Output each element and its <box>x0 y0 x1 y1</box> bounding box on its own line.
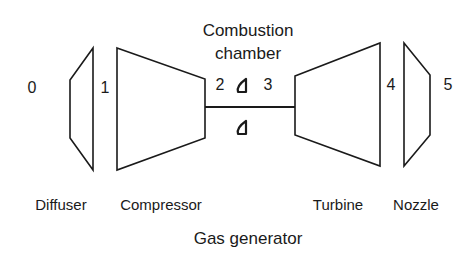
nozzle-label: Nozzle <box>393 196 439 213</box>
compressor-shape <box>117 48 205 170</box>
station-3-label: 3 <box>264 76 273 93</box>
station-1-label: 1 <box>101 79 110 96</box>
turbine-label: Turbine <box>313 196 363 213</box>
station-4-label: 4 <box>387 76 396 93</box>
diffuser-shape <box>70 48 93 170</box>
flame-holder-icon-upper <box>238 79 246 92</box>
station-2-label: 2 <box>216 76 225 93</box>
compressor-label: Compressor <box>120 196 202 213</box>
gas-generator-label: Gas generator <box>194 229 303 248</box>
nozzle-shape <box>404 43 430 166</box>
station-5-label: 5 <box>444 76 453 93</box>
station-0-label: 0 <box>28 79 37 96</box>
combustion-chamber-label-line1: Combustion <box>203 21 294 40</box>
flame-holder-icon-lower <box>238 121 246 134</box>
gas-turbine-diagram: Combustion chamber 0 1 2 3 4 5 Diffuser … <box>0 0 475 258</box>
turbine-shape <box>295 43 380 166</box>
combustion-chamber-label-line2: chamber <box>215 44 281 63</box>
diffuser-label: Diffuser <box>35 196 86 213</box>
